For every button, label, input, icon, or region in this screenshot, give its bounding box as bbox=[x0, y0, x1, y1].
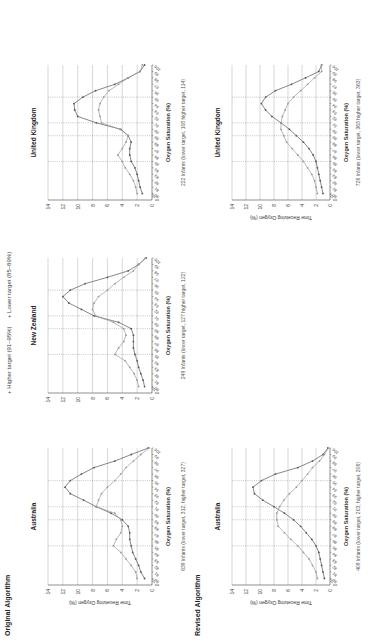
data-point bbox=[312, 467, 314, 469]
data-point bbox=[119, 128, 121, 130]
data-point bbox=[315, 161, 317, 163]
data-point bbox=[315, 545, 317, 547]
data-point bbox=[95, 315, 97, 317]
data-point bbox=[130, 565, 132, 567]
data-point bbox=[328, 447, 330, 449]
data-point bbox=[95, 122, 97, 124]
data-point bbox=[321, 565, 323, 567]
y-tick-label: 10 bbox=[75, 589, 81, 595]
data-point bbox=[321, 186, 323, 188]
data-point bbox=[130, 141, 132, 143]
data-point bbox=[112, 545, 114, 547]
data-point bbox=[121, 525, 123, 527]
data-point bbox=[321, 64, 323, 66]
data-point bbox=[114, 354, 116, 356]
data-point bbox=[99, 103, 101, 105]
y-tick-label: 0 bbox=[327, 204, 333, 207]
x-tick-label: 100 bbox=[153, 64, 162, 73]
data-point bbox=[125, 141, 127, 143]
data-point bbox=[136, 379, 138, 381]
data-point bbox=[127, 270, 129, 272]
chart-panel-3: 0246810121408081828384858687888990919293… bbox=[214, 447, 361, 606]
y-tick-label: 2 bbox=[134, 204, 140, 207]
data-point bbox=[125, 334, 127, 336]
data-point bbox=[64, 486, 66, 488]
data-point bbox=[118, 83, 120, 85]
data-point bbox=[93, 302, 95, 304]
data-point bbox=[73, 103, 75, 105]
data-point bbox=[121, 161, 123, 163]
data-point bbox=[118, 321, 120, 323]
data-point bbox=[107, 276, 109, 278]
data-point bbox=[82, 96, 84, 98]
y-tick-label: 8 bbox=[271, 589, 277, 592]
data-point bbox=[144, 257, 146, 259]
data-point bbox=[98, 296, 100, 298]
data-point bbox=[84, 283, 86, 285]
panel-caption: 409 Infants (lower target, 203; higher t… bbox=[355, 462, 361, 571]
y-tick-label: 10 bbox=[75, 204, 81, 210]
data-point bbox=[140, 454, 142, 456]
data-point bbox=[296, 135, 298, 137]
y-axis-label: Time Receiving Oxygen (%) bbox=[250, 215, 312, 221]
data-point bbox=[284, 109, 286, 111]
data-point bbox=[144, 578, 146, 580]
y-tick-label: 14 bbox=[45, 397, 51, 403]
data-point bbox=[297, 545, 299, 547]
data-point bbox=[138, 565, 140, 567]
y-tick-label: 2 bbox=[134, 589, 140, 592]
series-line-lower bbox=[281, 65, 322, 194]
data-point bbox=[303, 551, 305, 553]
data-point bbox=[317, 167, 319, 169]
data-point bbox=[265, 96, 267, 98]
data-point bbox=[135, 571, 137, 573]
data-point bbox=[136, 173, 138, 175]
y-tick-label: 4 bbox=[299, 589, 305, 592]
data-point bbox=[115, 538, 117, 540]
data-point bbox=[307, 167, 309, 169]
data-point bbox=[314, 180, 316, 182]
chart-panel-1: 0246810121408081828384858687888990919293… bbox=[30, 257, 186, 403]
data-point bbox=[265, 109, 267, 111]
data-point bbox=[276, 519, 278, 521]
panel-title: United Kingdom bbox=[214, 107, 222, 157]
data-point bbox=[127, 77, 129, 79]
data-point bbox=[317, 578, 319, 580]
data-point bbox=[117, 154, 119, 156]
data-point bbox=[318, 71, 320, 73]
data-point bbox=[135, 186, 137, 188]
data-point bbox=[121, 148, 123, 150]
data-point bbox=[107, 486, 109, 488]
data-point bbox=[308, 558, 310, 560]
data-point bbox=[315, 186, 317, 188]
data-point bbox=[136, 578, 138, 580]
data-point bbox=[261, 103, 263, 105]
y-tick-label: 8 bbox=[90, 204, 96, 207]
data-point bbox=[291, 83, 293, 85]
data-point bbox=[77, 116, 79, 118]
data-point bbox=[129, 532, 131, 534]
data-point bbox=[322, 193, 324, 195]
data-point bbox=[129, 148, 131, 150]
data-point bbox=[133, 180, 135, 182]
x-tick-label: 100 bbox=[153, 257, 162, 266]
chart-panel-4: 0246810121408081828384858687888990919293… bbox=[214, 64, 361, 221]
data-point bbox=[129, 366, 131, 368]
data-point bbox=[271, 116, 273, 118]
x-axis-label: Oxygen Saturation (%) bbox=[165, 296, 171, 355]
y-tick-label: 14 bbox=[229, 204, 235, 210]
data-point bbox=[81, 309, 83, 311]
y-tick-label: 10 bbox=[257, 589, 263, 595]
data-point bbox=[62, 296, 64, 298]
data-point bbox=[120, 551, 122, 553]
data-point bbox=[312, 460, 314, 462]
data-point bbox=[81, 473, 83, 475]
data-point bbox=[125, 558, 127, 560]
data-point bbox=[129, 154, 131, 156]
data-point bbox=[287, 103, 289, 105]
data-point bbox=[286, 141, 288, 143]
series-line-higher bbox=[63, 258, 146, 387]
data-point bbox=[124, 167, 126, 169]
x-axis-label: Oxygen Saturation (%) bbox=[165, 103, 171, 162]
panel-title: New Zealand bbox=[30, 306, 37, 346]
